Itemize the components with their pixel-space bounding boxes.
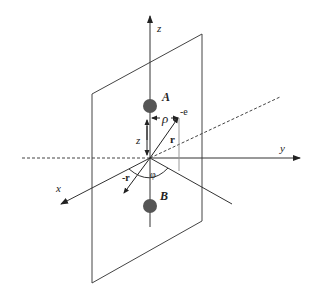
r-vector-label: r [170,133,175,145]
nucleus-a-label: A [161,90,170,104]
diagram-canvas: z y x A B -e ρ z r -r φ [0,0,319,299]
neg-r-label: -r [122,172,130,183]
coordinate-diagram: z y x A B -e ρ z r -r φ [0,0,319,299]
phi-angle-arc [129,168,168,178]
dashed-projection-line [150,97,280,158]
nucleus-b-label: B [159,189,168,203]
z-distance-label: z [135,134,141,146]
nucleus-b [143,199,157,213]
z-axis-label: z [156,22,162,34]
x-axis-label: x [55,182,61,194]
phi-label: φ [150,169,156,180]
x-axis [61,158,150,204]
nucleus-a [143,99,157,113]
electron-label: -e [180,106,188,117]
rho-label: ρ [161,111,168,126]
y-axis-label: y [279,142,285,154]
